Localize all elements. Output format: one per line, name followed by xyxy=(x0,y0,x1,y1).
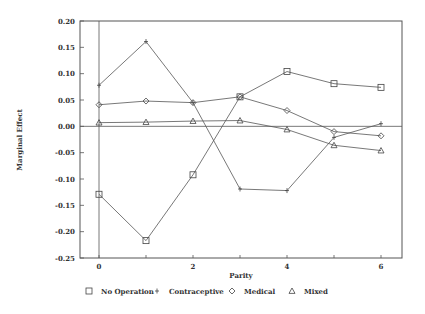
series-lines xyxy=(96,39,384,244)
y-tick-label: -0.20 xyxy=(55,227,75,236)
y-tick-label: 0.10 xyxy=(58,69,75,78)
series-contraceptive xyxy=(97,39,383,193)
legend-label: Contraceptive xyxy=(169,287,224,296)
x-tick-label: 4 xyxy=(285,262,290,271)
legend-item: No Operation xyxy=(86,287,154,296)
triangle-marker-icon xyxy=(289,288,295,293)
series-no-operation xyxy=(96,69,384,244)
y-tick-label: -0.25 xyxy=(55,254,75,263)
square-marker-icon xyxy=(86,288,92,294)
y-tick-label: -0.05 xyxy=(55,148,75,157)
legend-item: Mixed xyxy=(289,287,328,296)
y-axis-label: Marginal Effect xyxy=(15,109,24,171)
x-tick-label: 0 xyxy=(97,262,102,271)
y-tick-label: 0.15 xyxy=(58,43,75,52)
legend-label: Mixed xyxy=(304,287,328,296)
axes: 0.200.150.100.050.00-0.05-0.10-0.15-0.20… xyxy=(55,17,402,272)
x-tick-label: 2 xyxy=(191,262,196,271)
legend-label: Medical xyxy=(244,287,276,296)
x-tick-label: 6 xyxy=(379,262,384,271)
legend: No OperationContraceptiveMedicalMixed xyxy=(86,287,328,296)
y-tick-label: -0.15 xyxy=(55,201,75,210)
legend-item: Medical xyxy=(229,287,276,296)
diamond-marker-icon xyxy=(229,288,235,294)
y-tick-label: -0.10 xyxy=(55,175,75,184)
legend-label: No Operation xyxy=(101,287,154,296)
y-tick-label: 0.20 xyxy=(58,17,75,26)
y-tick-label: 0.05 xyxy=(58,96,75,105)
plot-frame xyxy=(80,21,402,258)
line-chart: 0.200.150.100.050.00-0.05-0.10-0.15-0.20… xyxy=(0,0,425,314)
y-tick-label: 0.00 xyxy=(58,122,75,131)
legend-item: Contraceptive xyxy=(155,287,224,296)
series-medical xyxy=(96,94,384,139)
x-axis-label: Parity xyxy=(229,271,253,280)
